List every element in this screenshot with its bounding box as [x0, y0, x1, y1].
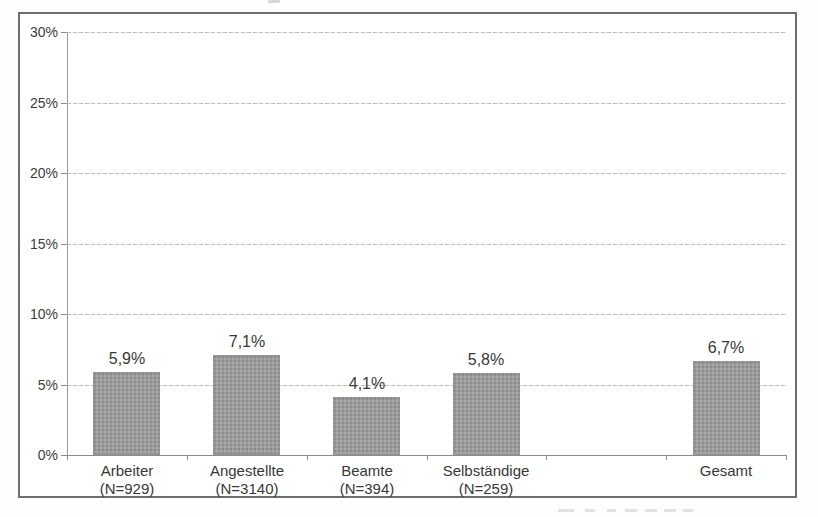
x-axis-tick [307, 455, 308, 460]
bar-Gesamt [693, 361, 760, 455]
x-axis-tick [427, 455, 428, 460]
scanned-page: 5,9%Arbeiter(N=929)7,1%Angestellte(N=314… [0, 0, 818, 517]
x-category-label: Selbständige(N=259) [416, 462, 556, 498]
y-tick-label: 30% [20, 24, 58, 40]
chart-frame: 5,9%Arbeiter(N=929)7,1%Angestellte(N=314… [18, 12, 797, 498]
gridline-25 [67, 103, 786, 104]
y-tick-label: 20% [20, 165, 58, 181]
x-axis-tick [546, 455, 547, 460]
y-axis-tick [61, 455, 67, 456]
x-category-label: Gesamt [656, 462, 796, 480]
bar-value-label: 5,9% [77, 350, 177, 368]
x-category-count: (N=929) [57, 480, 197, 498]
x-category-name: Arbeiter [57, 462, 197, 480]
gridline-15 [67, 244, 786, 245]
gridline-5 [67, 385, 786, 386]
bar-value-label: 7,1% [197, 333, 297, 351]
x-category-label: Arbeiter(N=929) [57, 462, 197, 498]
x-axis-tick [67, 455, 68, 460]
y-axis-tick [61, 314, 67, 315]
y-axis-tick [61, 244, 67, 245]
y-tick-label: 15% [20, 236, 58, 252]
y-tick-label: 0% [20, 447, 58, 463]
x-category-name: Selbständige [416, 462, 556, 480]
x-category-name: Gesamt [656, 462, 796, 480]
x-category-label: Angestellte(N=3140) [177, 462, 317, 498]
x-category-name: Angestellte [177, 462, 317, 480]
bar-Arbeiter [93, 372, 160, 455]
y-axis-tick [61, 32, 67, 33]
x-axis-tick [666, 455, 667, 460]
scan-artifact [625, 509, 637, 512]
scan-artifact [558, 509, 574, 512]
scan-artifact [268, 0, 280, 3]
bar-Angestellte [213, 355, 280, 455]
y-axis-tick [61, 385, 67, 386]
scan-artifact [585, 509, 595, 512]
gridline-30 [67, 32, 786, 33]
y-axis-tick [61, 173, 67, 174]
bar-Selbständige [453, 373, 520, 455]
plot-area: 5,9%Arbeiter(N=929)7,1%Angestellte(N=314… [67, 32, 786, 455]
x-axis-tick [187, 455, 188, 460]
gridline-10 [67, 314, 786, 315]
x-axis-tick [786, 455, 787, 460]
bar-value-label: 4,1% [317, 375, 417, 393]
gridline-20 [67, 173, 786, 174]
x-category-count: (N=259) [416, 480, 556, 498]
scan-artifact [607, 509, 616, 512]
x-category-count: (N=3140) [177, 480, 317, 498]
bar-Beamte [333, 397, 400, 455]
scan-artifact [645, 509, 657, 512]
y-tick-label: 5% [20, 377, 58, 393]
bar-value-label: 5,8% [436, 351, 536, 369]
scan-artifact [664, 509, 676, 512]
scan-artifact [683, 509, 693, 512]
bar-value-label: 6,7% [676, 339, 776, 357]
y-tick-label: 10% [20, 306, 58, 322]
y-tick-label: 25% [20, 95, 58, 111]
y-axis-tick [61, 103, 67, 104]
